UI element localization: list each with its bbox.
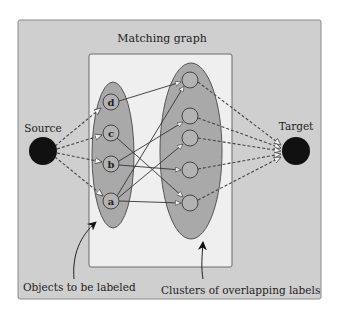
clusters-ellipse [160,63,222,239]
object-label-c: c [108,128,114,139]
object-label-d: d [108,97,115,108]
label-node-n5 [182,195,198,211]
object-node-b: b [103,156,119,172]
source-node [29,137,57,165]
target-label: Target [279,120,314,132]
diagram-title: Matching graph [117,32,207,45]
object-node-c: c [103,125,119,141]
label-node-n3 [182,130,198,146]
label-node-n2 [182,108,198,124]
object-label-b: b [108,159,115,170]
label-node-n1 [182,72,198,88]
source-label: Source [24,122,61,134]
objects-caption: Objects to be labeled [23,281,136,293]
object-node-a: a [103,193,119,209]
label-node-n4 [182,162,198,178]
clusters-caption: Clusters of overlapping labels [161,284,320,296]
object-node-d: d [103,94,119,110]
target-node [282,137,310,165]
object-label-a: a [108,196,115,207]
matching-graph-diagram: Matching graph d c b [0,0,338,318]
